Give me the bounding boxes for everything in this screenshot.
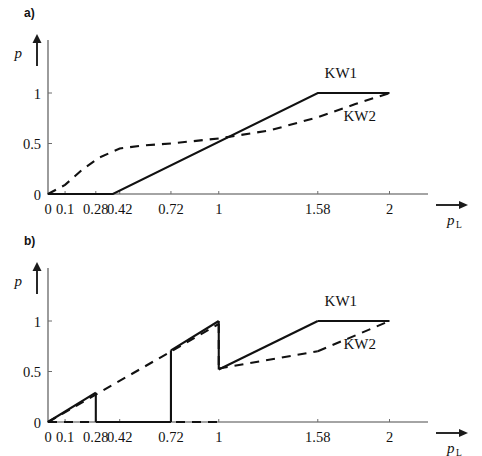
y-axis-arrowhead <box>33 34 42 43</box>
x-tick-label: 0.72 <box>158 429 183 445</box>
x-axis-arrowhead <box>459 201 468 209</box>
x-tick-label: 1.58 <box>305 429 330 445</box>
x-tick-label: 0.28 <box>83 201 108 217</box>
x-tick-label: 0.72 <box>158 201 183 217</box>
x-tick-label: 0 <box>44 429 51 445</box>
figure-container: a) ppL00.10.280.420.7211.58200.51KW1KW2 … <box>0 0 482 456</box>
series-label-kw2: KW2 <box>343 108 376 124</box>
x-tick-label: 1.58 <box>305 201 330 217</box>
x-axis-title: p <box>446 212 455 228</box>
curve-segment-kw1 <box>171 321 219 350</box>
x-tick-label: 0 <box>44 201 51 217</box>
series-kw1: KW1 <box>48 65 390 194</box>
x-tick-label: 0.28 <box>83 429 108 445</box>
x-axis-title: p <box>446 440 455 456</box>
y-axis-title: p <box>14 273 23 289</box>
y-axis-title: p <box>14 45 23 61</box>
panel-b: b) ppL00.10.280.420.7211.58200.51KW1KW2 <box>0 228 482 456</box>
y-tick-label: 0.5 <box>23 136 41 152</box>
series-kw2: KW2 <box>48 93 390 194</box>
x-tick-label: 0.42 <box>107 201 132 217</box>
series-label-kw1: KW1 <box>325 65 358 81</box>
curve-segment-kw2 <box>219 351 318 368</box>
x-tick-label: 1 <box>215 201 222 217</box>
x-tick-label: 1 <box>215 429 222 445</box>
y-tick-label: 1 <box>34 86 41 102</box>
x-tick-label: 2 <box>386 429 393 445</box>
y-axis-arrowhead <box>33 262 42 271</box>
curve-kw2 <box>48 93 390 194</box>
curve-kw1 <box>48 93 390 194</box>
x-tick-label: 0.1 <box>56 429 74 445</box>
y-tick-label: 1 <box>34 314 41 330</box>
x-axis-title-subscript: L <box>456 448 462 456</box>
x-tick-label: 2 <box>386 201 393 217</box>
panel-a-plot: ppL00.10.280.420.7211.58200.51KW1KW2 <box>0 0 482 228</box>
y-tick-label: 0 <box>34 187 41 203</box>
x-tick-label: 0.1 <box>56 201 74 217</box>
panel-b-plot: ppL00.10.280.420.7211.58200.51KW1KW2 <box>0 228 482 456</box>
curve-segment-kw1 <box>219 321 318 369</box>
panel-a: a) ppL00.10.280.420.7211.58200.51KW1KW2 <box>0 0 482 228</box>
series-label-kw1: KW1 <box>325 293 358 309</box>
series-label-kw2: KW2 <box>343 336 376 352</box>
y-tick-label: 0 <box>34 415 41 431</box>
y-tick-label: 0.5 <box>23 364 41 380</box>
x-axis-arrowhead <box>459 429 468 437</box>
x-tick-label: 0.42 <box>107 429 132 445</box>
